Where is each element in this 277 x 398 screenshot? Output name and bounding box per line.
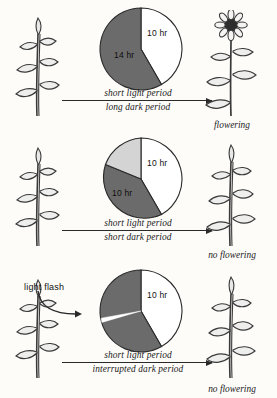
caption-dark-period: short dark period bbox=[62, 232, 214, 243]
pie-segment-label-dark: 14 hr bbox=[114, 50, 134, 60]
light-flash-arrow-icon bbox=[34, 289, 90, 319]
vegetative-plant-after bbox=[196, 272, 266, 380]
pie-chart-long-dark-period: 10 hr 14 hr bbox=[98, 6, 184, 92]
pie-svg bbox=[98, 136, 184, 222]
vegetative-plant-after bbox=[196, 140, 266, 248]
pie-segment-label-light: 10 hr bbox=[147, 158, 167, 168]
result-label: no flowering bbox=[188, 384, 276, 394]
pie-segment-label-light: 10 hr bbox=[147, 28, 167, 38]
caption-dark-period: long dark period bbox=[62, 102, 214, 113]
experiment-row-long-dark-period: 10 hr 14 hr short light period long dark… bbox=[0, 0, 277, 132]
photoperiodism-figure: 10 hr 14 hr short light period long dark… bbox=[0, 0, 277, 398]
process-arrow bbox=[62, 100, 212, 101]
flower-head bbox=[215, 10, 247, 41]
flowering-plant-after bbox=[196, 10, 266, 118]
caption-light-period: short light period bbox=[62, 88, 214, 99]
pie-chart-short-dark-period: 10 hr 10 hr bbox=[98, 136, 184, 222]
pie-svg bbox=[98, 268, 184, 354]
experiment-row-short-dark-period: 10 hr 10 hr short light period short dar… bbox=[0, 130, 277, 262]
process-arrow bbox=[62, 230, 212, 231]
process-arrow bbox=[62, 362, 212, 363]
pie-segment-label-dark: 10 hr bbox=[112, 188, 132, 198]
pie-svg bbox=[98, 6, 184, 92]
experiment-row-interrupted-dark-period: light flash 10 hr short light period int… bbox=[0, 262, 277, 394]
caption-dark-period: interrupted dark period bbox=[62, 364, 214, 375]
result-label: no flowering bbox=[188, 250, 276, 260]
result-label: flowering bbox=[188, 120, 276, 130]
vegetative-plant-before bbox=[6, 144, 68, 248]
vegetative-plant-before bbox=[6, 14, 68, 118]
pie-chart-interrupted-dark-period: 10 hr bbox=[98, 268, 184, 354]
caption-light-period: short light period bbox=[62, 350, 214, 361]
caption-light-period: short light period bbox=[62, 218, 214, 229]
pie-segment-label-light: 10 hr bbox=[147, 290, 167, 300]
